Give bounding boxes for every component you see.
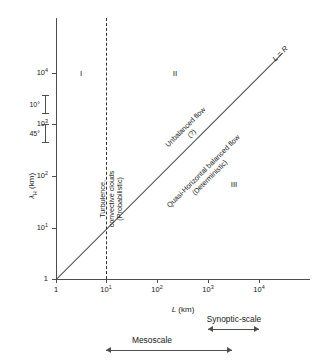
mesoscale-arrow-left xyxy=(106,347,111,353)
angle-marker-45-cap-bottom xyxy=(42,142,49,143)
angle-marker-45-bar xyxy=(45,124,46,142)
annotation-balanced-line1: Quasi-Horizontal balanced flow xyxy=(148,116,259,227)
mesoscale-arrow-right xyxy=(227,347,232,353)
annotation-balanced-flow: Quasi-Horizontal balanced flow (Determin… xyxy=(148,116,265,233)
y-tick-1000 xyxy=(52,124,56,125)
annotation-unbalanced-line1: Unbalanced flow xyxy=(150,92,221,163)
x-tick-label-100: 102 xyxy=(151,286,162,294)
y-tick-10000 xyxy=(52,73,56,74)
angle-marker-45-label: 45° xyxy=(16,130,40,137)
x-tick-label-1000: 103 xyxy=(202,286,213,294)
y-tick-10 xyxy=(52,228,56,229)
angle-marker-10-label: 10° xyxy=(16,101,40,108)
x-tick-label-10: 101 xyxy=(100,286,111,294)
mesoscale-label: Mesoscale xyxy=(132,335,172,345)
diagonal-l-equals-r-line xyxy=(56,53,283,280)
y-axis-title: λH (km) xyxy=(27,173,36,199)
scale-analysis-chart: 1 101 102 103 104 1 101 102 103 104 L (k… xyxy=(0,0,327,363)
x-axis-line xyxy=(56,279,310,280)
region-label-ii: II xyxy=(173,69,177,78)
synoptic-scale-arrow-right xyxy=(254,326,259,332)
y-axis-line xyxy=(56,18,57,280)
annotation-turbulence: Turbulence, convective clouds (Probabili… xyxy=(99,141,125,257)
synoptic-scale-label: Synoptic-scale xyxy=(207,314,261,324)
x-tick-100 xyxy=(157,279,158,283)
angle-marker-45-cap-top xyxy=(42,124,49,125)
x-tick-label-1: 1 xyxy=(54,286,58,294)
synoptic-scale-arrow-line xyxy=(208,329,259,330)
angle-marker-10-cap-bottom xyxy=(42,113,49,114)
x-tick-1000 xyxy=(208,279,209,283)
synoptic-scale-arrow-left xyxy=(208,326,213,332)
angle-marker-10-bar xyxy=(45,95,46,113)
x-axis-title: L (km) xyxy=(172,305,195,314)
region-label-i: I xyxy=(80,69,82,78)
region-label-iii: III xyxy=(231,180,238,189)
y-tick-label-1: 1 xyxy=(22,275,48,283)
mesoscale-arrow-line xyxy=(106,350,232,351)
y-tick-label-10: 101 xyxy=(22,224,48,232)
diagonal-l-equals-r-label: L = R xyxy=(270,44,289,63)
x-tick-10000 xyxy=(259,279,260,283)
x-tick-label-10000: 104 xyxy=(253,286,264,294)
x-tick-10 xyxy=(106,279,107,283)
annotation-turbulence-line3: (Probabilistic) xyxy=(116,141,125,257)
y-tick-100 xyxy=(52,176,56,177)
y-tick-label-10000: 104 xyxy=(22,69,48,77)
angle-marker-10-cap-top xyxy=(42,95,49,96)
